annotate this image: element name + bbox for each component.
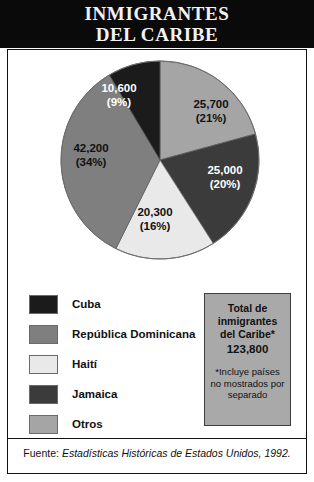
legend-label-jamaica: Jamaica <box>72 388 117 400</box>
source-label: Fuente: <box>23 447 62 459</box>
legend-label-otros: Otros <box>72 418 103 430</box>
title-banner: INMIGRANTES DEL CARIBE <box>0 0 314 48</box>
total-callout-footnote: *Incluye países no mostrados por separad… <box>210 366 285 401</box>
pie-chart: 25,700 (21%) 25,000 (20%) 20,300 (16%) 4… <box>60 60 260 260</box>
legend-swatch-haiti <box>29 355 58 374</box>
page-title-line-2: DEL CARIBE <box>96 24 219 45</box>
pie-chart-svg <box>60 60 260 260</box>
legend-swatch-republica-dominicana <box>29 325 58 344</box>
source-divider <box>8 438 306 439</box>
content-frame: 25,700 (21%) 25,000 (20%) 20,300 (16%) 4… <box>7 49 307 474</box>
total-callout-value: 123,800 <box>210 342 285 357</box>
legend-swatch-jamaica <box>29 385 58 404</box>
legend-swatch-otros <box>29 415 58 434</box>
total-callout-title: Total de inmigrantes del Caribe* <box>210 302 285 341</box>
legend-item-otros: Otros <box>29 413 194 435</box>
infographic-page: INMIGRANTES DEL CARIBE 25,700 (21%) 25,0… <box>0 0 314 482</box>
source-publication: Estadísticas Históricas de Estados Unido… <box>62 447 291 459</box>
legend-item-jamaica: Jamaica <box>29 383 194 405</box>
source-line: Fuente: Estadísticas Históricas de Estad… <box>8 447 306 459</box>
legend-label-haiti: Haití <box>72 358 97 370</box>
legend-label-republica-dominicana: República Dominicana <box>72 328 195 340</box>
legend-item-cuba: Cuba <box>29 293 194 315</box>
legend-item-haiti: Haití <box>29 353 194 375</box>
total-callout-box: Total de inmigrantes del Caribe* 123,800… <box>204 293 291 426</box>
legend-item-republica-dominicana: República Dominicana <box>29 323 194 345</box>
legend-swatch-cuba <box>29 295 58 314</box>
chart-legend: Cuba República Dominicana Haití Jamaica … <box>29 293 194 443</box>
page-title-line-1: INMIGRANTES <box>85 3 230 24</box>
legend-label-cuba: Cuba <box>72 298 101 310</box>
pie-slice-group <box>61 61 259 259</box>
